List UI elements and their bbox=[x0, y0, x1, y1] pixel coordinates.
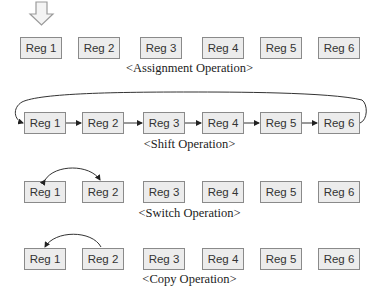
switch-arrow bbox=[45, 168, 100, 180]
copy-arrow bbox=[45, 234, 101, 247]
arrows-layer bbox=[0, 0, 379, 304]
input-arrow-icon bbox=[30, 2, 53, 25]
shift-arrows bbox=[15, 92, 366, 123]
